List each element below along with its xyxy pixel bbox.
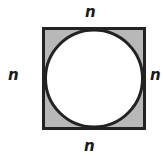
label-left: n [8,66,19,84]
label-top: n [85,3,96,21]
inscribed-circle [46,30,143,127]
inscribed-circle-diagram: n n n n [0,0,163,156]
label-right: n [150,66,161,84]
label-bottom: n [84,137,95,155]
